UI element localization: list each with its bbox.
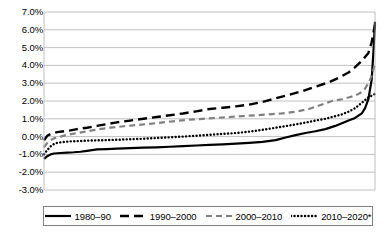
legend-item[interactable]: 1990–2000 [120, 211, 197, 222]
legend-item[interactable]: 1980–90 [45, 211, 111, 222]
legend-item[interactable]: 2010–2020* [291, 211, 371, 222]
legend-swatch-dotted-icon [291, 211, 317, 221]
series-lines [44, 22, 375, 159]
legend-item[interactable]: 2000–2010 [206, 211, 283, 222]
legend-label: 2000–2010 [236, 211, 283, 222]
legend-label: 1980–90 [75, 211, 111, 222]
series-line-0 [44, 22, 375, 159]
legend-label: 2010–2020* [321, 211, 371, 222]
series-line-1 [44, 24, 375, 140]
legend-swatch-long-dash-icon [120, 211, 146, 221]
legend-swatch-medium-dash-icon [206, 211, 232, 221]
chart-legend: 1980–901990–20002000–20102010–2020* [43, 206, 373, 226]
chart-container: 7.0%6.0%5.0%4.0%3.0%2.0%1.0%0.0%-1.0%-2.… [0, 0, 386, 236]
plot-area [0, 0, 386, 236]
legend-label: 1990–2000 [150, 211, 197, 222]
gridlines [44, 12, 375, 190]
legend-swatch-solid-icon [45, 211, 71, 221]
